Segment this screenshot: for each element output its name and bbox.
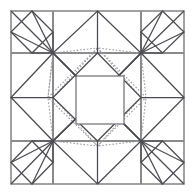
pattern-svg [0, 0, 195, 195]
pattern-canvas [0, 0, 195, 195]
center-square [76, 76, 124, 124]
